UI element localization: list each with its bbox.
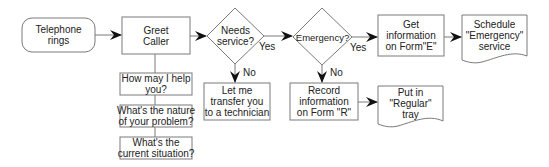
q2-label: What's the nature of your problem? — [116, 105, 196, 127]
greet-label: Greet Caller — [122, 17, 190, 54]
regular-tray-label: Put in "Regular" tray — [378, 86, 443, 120]
emergency-label: Emergency? — [290, 29, 355, 45]
emergency-yes-label: Yes — [350, 42, 366, 53]
needs-no-label: No — [243, 67, 256, 78]
schedule-label: Schedule "Emergency" service — [460, 15, 529, 55]
needs-service-label: Needs service? — [207, 20, 264, 52]
q1-label: How may I help you? — [118, 73, 194, 95]
form-e-label: Get information on Form"E" — [378, 15, 444, 56]
transfer-label: Let me transfer you to a technician — [202, 83, 272, 120]
start-label: Telephone rings — [22, 18, 95, 52]
record-r-label: Record information on Form "R" — [288, 83, 360, 120]
needs-yes-label: Yes — [259, 41, 275, 52]
q3-label: What's the current situation? — [116, 137, 196, 159]
emergency-no-label: No — [330, 67, 343, 78]
